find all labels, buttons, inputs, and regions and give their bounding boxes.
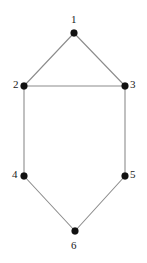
- vertex-label: 1: [71, 14, 77, 25]
- graph-vertex: [21, 173, 28, 180]
- graph-vertex: [122, 173, 129, 180]
- vertex-label: 3: [130, 79, 136, 90]
- graph-edge: [24, 33, 74, 86]
- graph-vertex: [122, 83, 129, 90]
- graph-vertex: [71, 30, 78, 37]
- vertex-label: 2: [13, 79, 19, 90]
- graph-edge: [74, 33, 125, 86]
- graph-edge: [75, 176, 125, 231]
- vertex-label: 6: [71, 240, 77, 251]
- vertex-label: 4: [12, 169, 18, 180]
- edges-group: [24, 33, 125, 231]
- graph-figure: 123456: [0, 0, 147, 263]
- vertices-group: [21, 30, 129, 235]
- graph-vertex: [72, 228, 79, 235]
- graph-vertex: [21, 83, 28, 90]
- graph-canvas: [0, 0, 147, 263]
- graph-edge: [24, 176, 75, 231]
- vertex-label: 5: [130, 169, 136, 180]
